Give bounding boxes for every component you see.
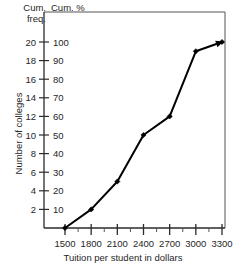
data-point-marker <box>193 49 198 54</box>
y2-axis-tick-label: 80 <box>53 74 64 85</box>
x-axis-tick-label: 2700 <box>159 238 180 249</box>
y-axis-tick-label: 12 <box>25 111 36 122</box>
x-axis-tick-label: 1800 <box>81 238 102 249</box>
y-axis-tick-label: 10 <box>25 130 36 141</box>
y2-axis-tick-label: 70 <box>53 92 64 103</box>
y-axis-tick-label: 20 <box>25 37 36 48</box>
y2-axis-tick-label: 30 <box>53 167 64 178</box>
x-axis-tick-label: 1500 <box>54 238 75 249</box>
x-axis-tick-label: 3000 <box>185 238 206 249</box>
y-axis-tick-label: 6 <box>31 167 36 178</box>
y2-axis-tick-label: 20 <box>53 185 64 196</box>
plot-frame <box>44 12 225 228</box>
plot-area: 2104206308401050126014701680189020100150… <box>0 0 246 270</box>
y-axis-tick-label: 2 <box>31 204 36 215</box>
y2-axis-tick-label: 40 <box>53 148 64 159</box>
x-axis-tick-label: 2400 <box>133 238 154 249</box>
x-axis-tick-label: 3300 <box>211 238 232 249</box>
y2-axis-tick-label: 10 <box>53 204 64 215</box>
y2-axis-tick-label: 100 <box>53 37 69 48</box>
y-axis-tick-label: 16 <box>25 74 36 85</box>
y-axis-tick-label: 8 <box>31 148 36 159</box>
y-axis-tick-label: 4 <box>31 185 36 196</box>
y2-axis-tick-label: 50 <box>53 130 64 141</box>
y2-axis-tick-label: 90 <box>53 55 64 66</box>
chart-figure: Cum. freq. Cum. % Number of colleges Tui… <box>0 0 246 270</box>
y-axis-tick-label: 14 <box>25 92 36 103</box>
x-axis-tick-label: 2100 <box>107 238 128 249</box>
y2-axis-tick-label: 60 <box>53 111 64 122</box>
y-axis-tick-label: 18 <box>25 55 36 66</box>
